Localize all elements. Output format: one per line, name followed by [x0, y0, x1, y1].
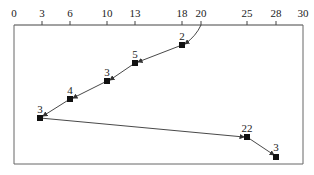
tick-label: 20 — [196, 7, 208, 19]
tick-label: 30 — [298, 7, 310, 19]
point-label: 3 — [273, 141, 279, 153]
point-label: 2 — [179, 30, 185, 42]
tick-label: 6 — [67, 7, 73, 19]
request-markers — [37, 42, 279, 160]
point-label: 3 — [104, 66, 110, 78]
tick-label: 10 — [102, 7, 114, 19]
tick-label: 18 — [177, 7, 189, 19]
point-label: 4 — [67, 84, 73, 96]
disk-scheduling-diagram: 0 3 6 10 13 18 20 25 28 30 2 5 3 4 3 22 … — [0, 0, 314, 175]
point-label: 22 — [242, 122, 253, 134]
tick-label: 28 — [271, 7, 283, 19]
tick-label: 3 — [39, 7, 45, 19]
tick-label: 13 — [130, 7, 142, 19]
point-label: 3 — [37, 103, 43, 115]
tick-marks — [42, 21, 276, 25]
tick-label: 0 — [11, 7, 17, 19]
tick-label: 25 — [242, 7, 254, 19]
point-label: 5 — [132, 48, 138, 60]
seek-path — [40, 25, 274, 155]
